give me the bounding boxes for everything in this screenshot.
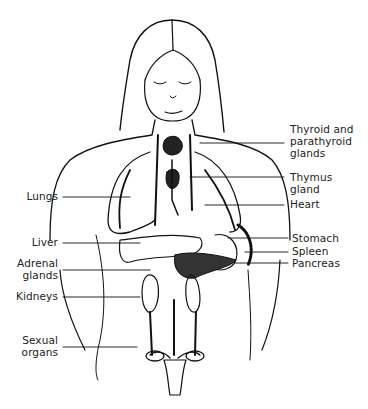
label-thymus: Thymus gland (290, 171, 332, 195)
label-heart: Heart (290, 198, 320, 210)
label-pancreas: Pancreas (292, 257, 340, 269)
label-lungs: Lungs (14, 190, 58, 202)
label-liver: Liver (14, 236, 58, 248)
endocrine-diagram: Lungs Liver Adrenal glands Kidneys Sexua… (0, 0, 368, 409)
label-stomach: Stomach (292, 232, 339, 244)
label-spleen: Spleen (292, 245, 328, 257)
label-thyroid-parathyroid: Thyroid and parathyroid glands (290, 123, 354, 159)
label-sexual-organs: Sexual organs (4, 334, 58, 358)
label-kidneys: Kidneys (4, 290, 58, 302)
label-adrenal-glands: Adrenal glands (4, 257, 58, 281)
